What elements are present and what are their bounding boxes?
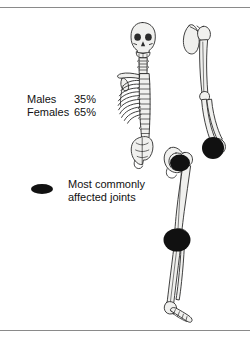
cervical-spine-bone xyxy=(137,58,148,74)
wrist-joint-marker xyxy=(202,137,224,159)
statistics-row-females: Females65% xyxy=(27,106,96,119)
statistics-label-males: Males xyxy=(27,93,74,106)
statistics-label-females: Females xyxy=(27,106,74,119)
femur-bone xyxy=(175,165,191,232)
clavicle-bone xyxy=(118,73,139,78)
statistics-row-males: Males35% xyxy=(27,93,96,106)
foot-bone xyxy=(170,308,192,323)
humerus-bone xyxy=(200,40,208,93)
humerus-head-bone xyxy=(198,26,211,41)
pelvis-bone xyxy=(131,137,153,169)
legend-line-2: affected joints xyxy=(68,191,145,204)
skeleton-illustration xyxy=(0,0,250,353)
legend-marker-icon xyxy=(31,184,53,194)
statistics-value-males: 35% xyxy=(74,93,96,106)
statistics-value-females: 65% xyxy=(74,106,96,119)
legend-line-1: Most commonly xyxy=(68,178,145,191)
legend-text: Most commonly affected joints xyxy=(68,178,145,204)
skeleton-figure: Males35% Females65% Most commonly affect… xyxy=(0,0,250,353)
skull-bone xyxy=(131,23,155,54)
gender-statistics: Males35% Females65% xyxy=(27,93,96,118)
knee-joint-marker xyxy=(164,229,191,252)
thoracic-spine-bone xyxy=(138,74,151,138)
hip-joint-marker xyxy=(170,155,190,172)
